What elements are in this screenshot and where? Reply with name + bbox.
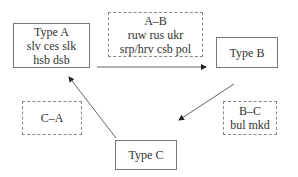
node-type-a-title: Type A	[34, 25, 69, 39]
transition-a-b-label: A–B	[144, 14, 167, 28]
transition-a-b: A–B ruw rus ukr srp/hrv csb pol	[108, 12, 203, 57]
transition-b-c: B–C bul mkd	[223, 101, 277, 135]
node-type-c-title: Type C	[129, 148, 164, 162]
node-type-b: Type B	[216, 37, 278, 68]
node-type-a-line-1: slv ces slk	[27, 39, 76, 53]
transition-a-b-line-1: ruw rus ukr	[128, 28, 183, 42]
transition-b-c-line-1: bul mkd	[230, 118, 270, 132]
transition-a-b-line-2: srp/hrv csb pol	[120, 42, 191, 56]
node-type-a-line-2: hsb dsb	[33, 53, 69, 67]
transition-c-a: C–A	[22, 101, 82, 135]
node-type-a: Type A slv ces slk hsb dsb	[13, 23, 90, 68]
transition-c-a-label: C–A	[41, 111, 64, 125]
node-type-c: Type C	[115, 140, 177, 170]
transition-b-c-label: B–C	[239, 104, 261, 118]
node-type-b-title: Type B	[230, 46, 265, 60]
